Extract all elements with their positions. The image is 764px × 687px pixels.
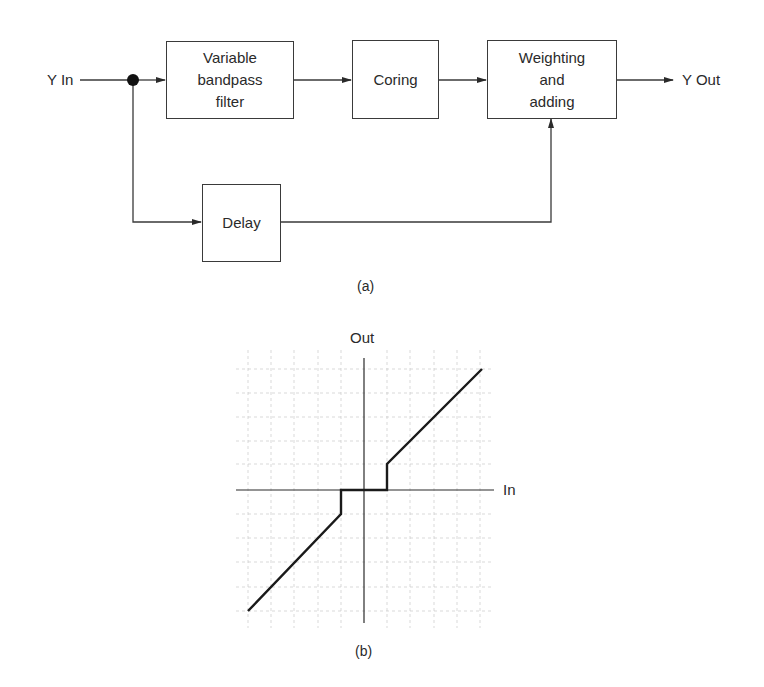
- block-label-line: Weighting: [519, 47, 585, 69]
- y-axis-label: Out: [350, 329, 374, 346]
- block-label-line: filter: [197, 91, 262, 113]
- caption-a: (a): [357, 278, 374, 294]
- block-label: Delay: [222, 212, 260, 234]
- junction-dot: [127, 74, 139, 86]
- block-label-line: and: [519, 69, 585, 91]
- coring-block: Coring: [352, 40, 439, 119]
- delay-block: Delay: [202, 184, 281, 262]
- variable-bandpass-filter-block: Variable bandpass filter: [166, 41, 294, 119]
- weighting-adding-block: Weighting and adding: [487, 40, 617, 119]
- block-label-line: Variable: [197, 47, 262, 69]
- caption-b: (b): [355, 643, 372, 659]
- block-label-line: bandpass: [197, 69, 262, 91]
- input-label: Y In: [47, 71, 73, 88]
- output-label: Y Out: [682, 71, 720, 88]
- block-label-line: adding: [519, 91, 585, 113]
- block-label: Coring: [373, 69, 417, 91]
- x-axis-label: In: [503, 481, 516, 498]
